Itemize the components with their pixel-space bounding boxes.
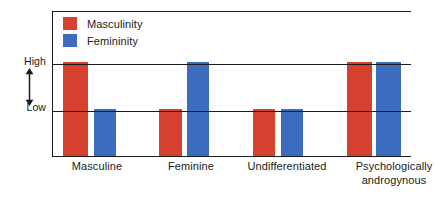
bar-undifferentiated-femininity: [281, 109, 303, 156]
red-square-swatch-icon: [63, 17, 77, 30]
y-tick-label-high: High: [24, 56, 46, 67]
bar-feminine-masculinity: [159, 109, 182, 156]
legend-item-femininity: Femininity: [63, 32, 143, 49]
x-label-androgynous-line2: androgynous: [362, 174, 427, 186]
legend-label-femininity: Femininity: [87, 35, 138, 47]
x-label-androgynous: Psychologically androgynous: [339, 160, 437, 187]
y-axis: High Low: [0, 52, 52, 122]
blue-square-swatch-icon: [63, 34, 77, 47]
x-label-androgynous-line1: Psychologically: [356, 160, 433, 172]
bar-masculine-masculinity: [63, 62, 88, 156]
bar-masculine-femininity: [94, 109, 116, 156]
bar-undifferentiated-masculinity: [253, 109, 275, 156]
legend-label-masculinity: Masculinity: [87, 18, 143, 30]
legend: Masculinity Femininity: [63, 15, 143, 49]
plot-area: Masculinity Femininity: [52, 11, 411, 157]
x-axis-labels: Masculine Feminine Undifferentiated Psyc…: [52, 160, 431, 200]
x-label-undifferentiated: Undifferentiated: [230, 160, 344, 174]
x-label-undifferentiated-line1: Undifferentiated: [247, 160, 326, 172]
bar-androgynous-femininity: [376, 62, 401, 156]
range-arrow-icon: [24, 68, 35, 106]
gridline-high: [53, 64, 411, 65]
x-label-masculine: Masculine: [52, 160, 142, 174]
x-label-feminine: Feminine: [148, 160, 234, 174]
bar-androgynous-masculinity: [347, 62, 372, 156]
bar-feminine-femininity: [187, 62, 209, 156]
gridline-low: [53, 111, 411, 112]
x-label-masculine-line1: Masculine: [72, 160, 122, 172]
legend-item-masculinity: Masculinity: [63, 15, 143, 32]
x-label-feminine-line1: Feminine: [168, 160, 214, 172]
